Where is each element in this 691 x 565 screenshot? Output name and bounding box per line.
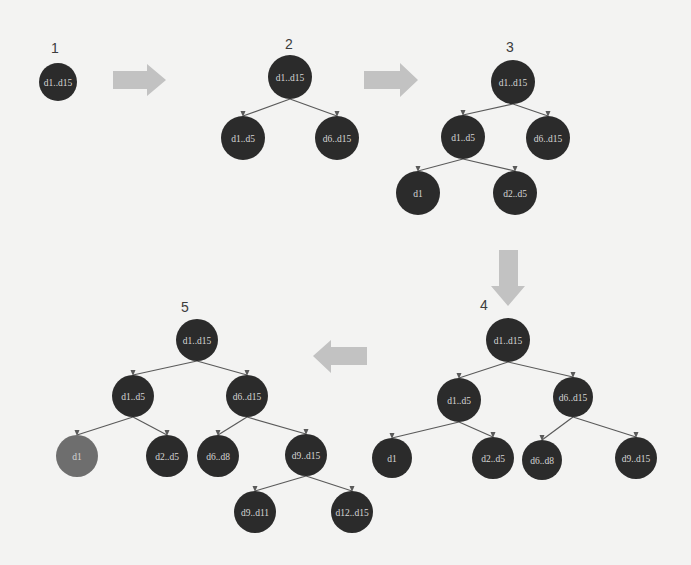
- tree-nodes: d1..d15d1..d15d1..d5d6..d15d1..d15d1..d5…: [39, 55, 657, 533]
- tree-node: d1..d5: [221, 116, 265, 160]
- tree-edge: [459, 362, 508, 378]
- tree-node: d1: [56, 435, 98, 477]
- tree-edge: [573, 417, 636, 437]
- node-label: d1..d5: [447, 396, 471, 406]
- tree-node: d9..d11: [234, 491, 276, 533]
- node-label: d6..d15: [534, 134, 563, 144]
- tree-edge: [218, 417, 247, 435]
- tree-node: d1..d15: [491, 60, 535, 104]
- tree-node: d9..d15: [615, 437, 657, 479]
- tree-edge: [197, 361, 247, 375]
- tree-node: d1: [372, 438, 412, 478]
- step-label-1: 1: [51, 40, 59, 56]
- right-arrow-icon: [364, 63, 418, 97]
- tree-edge: [133, 417, 167, 435]
- tree-node: d1..d15: [39, 63, 77, 101]
- tree-edge: [542, 417, 573, 440]
- node-label: d9..d15: [622, 454, 651, 464]
- node-label: d12..d15: [335, 508, 369, 518]
- tree-node: d9..d15: [285, 434, 327, 476]
- node-label: d9..d11: [241, 508, 269, 518]
- node-label: d1..d15: [499, 78, 528, 88]
- right-arrow-icon: [113, 64, 166, 96]
- node-label: d1: [413, 189, 423, 199]
- tree-node: d1..d5: [437, 378, 481, 422]
- node-label: d6..d15: [559, 393, 588, 403]
- tree-node: d1..d15: [268, 55, 312, 99]
- tree-edge: [459, 422, 493, 437]
- tree-node: d1..d5: [112, 375, 154, 417]
- tree-edge: [463, 159, 515, 171]
- tree-edge: [392, 422, 459, 438]
- node-label: d1..d15: [276, 73, 305, 83]
- tree-node: d6..d8: [197, 435, 239, 477]
- tree-node: d6..d15: [526, 116, 570, 160]
- left-arrow-icon: [313, 340, 367, 373]
- tree-node: d1: [396, 171, 440, 215]
- tree-edge: [290, 99, 337, 116]
- tree-edge: [243, 99, 290, 116]
- step-label-4: 4: [480, 297, 488, 313]
- node-label: d6..d15: [233, 392, 262, 402]
- node-label: d2..d5: [155, 452, 179, 462]
- node-label: d1..d15: [44, 78, 73, 88]
- tree-node: d1..d15: [176, 319, 218, 361]
- tree-edge: [133, 361, 197, 375]
- node-label: d6..d8: [530, 456, 554, 466]
- node-label: d2..d5: [481, 454, 505, 464]
- tree-node: d1..d15: [486, 318, 530, 362]
- tree-node: d2..d5: [146, 435, 188, 477]
- node-label: d6..d15: [323, 134, 352, 144]
- tree-node: d2..d5: [472, 437, 514, 479]
- node-label: d1..d15: [183, 336, 212, 346]
- node-label: d1..d15: [494, 336, 523, 346]
- tree-edge: [513, 104, 548, 116]
- tree-node: d6..d15: [315, 116, 359, 160]
- node-label: d2..d5: [503, 189, 527, 199]
- tree-node: d6..d15: [553, 377, 593, 417]
- step-label-3: 3: [506, 39, 514, 55]
- node-label: d1: [72, 452, 82, 462]
- tree-node: d2..d5: [493, 171, 537, 215]
- tree-edge: [418, 159, 463, 171]
- tree-edge: [508, 362, 573, 377]
- step-label-5: 5: [181, 299, 189, 315]
- tree-edge: [247, 417, 306, 434]
- node-label: d1..d5: [231, 134, 255, 144]
- step-label-2: 2: [285, 36, 293, 52]
- node-label: d1..d5: [451, 133, 475, 143]
- tree-edge: [255, 476, 306, 491]
- node-label: d6..d8: [206, 452, 230, 462]
- down-arrow-icon: [491, 250, 525, 306]
- tree-node: d6..d15: [226, 375, 268, 417]
- tree-node: d12..d15: [331, 491, 373, 533]
- tree-edge: [463, 104, 513, 115]
- node-label: d1: [387, 454, 397, 464]
- tree-split-diagram: 1 2 3 4 5 d1..d15d1..d15d1..d5d6..d15d1.…: [0, 0, 691, 565]
- node-label: d9..d15: [292, 451, 321, 461]
- tree-node: d1..d5: [441, 115, 485, 159]
- tree-edge: [306, 476, 352, 491]
- node-label: d1..d5: [121, 392, 145, 402]
- tree-node: d6..d8: [522, 440, 562, 480]
- tree-edge: [77, 417, 133, 435]
